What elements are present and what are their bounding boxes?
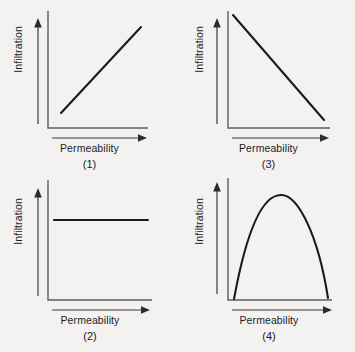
panel-1-x-arrow-head — [138, 134, 147, 142]
panel-4-x-arrow-head — [323, 306, 332, 314]
panel-4: Infiltration Permeability (4) — [178, 176, 355, 352]
panel-1-ylabel: Infiltration — [13, 26, 24, 73]
panel-3-ylabel: Infiltration — [194, 26, 205, 73]
panel-4-caption: (4) — [178, 330, 355, 342]
panel-1-y-arrow-head — [34, 18, 42, 28]
panel-3-curve — [233, 15, 324, 120]
panel-1-caption: (1) — [0, 158, 177, 170]
panel-2-xlabel: Permeability — [0, 314, 177, 326]
panel-3: Infiltration Permeability (3) — [178, 0, 355, 176]
panel-4-xlabel: Permeability — [178, 314, 355, 326]
panel-1: Infiltration Permeability (1) — [0, 0, 177, 176]
panel-3-xlabel: Permeability — [178, 142, 355, 154]
panel-2-axes — [48, 180, 152, 300]
panel-1-xlabel: Permeability — [0, 142, 177, 154]
panel-1-curve — [61, 27, 141, 113]
panel-4-curve — [234, 195, 328, 299]
panel-2: Infiltration Permeability (2) — [0, 176, 177, 352]
panel-2-ylabel: Infiltration — [13, 198, 24, 245]
panel-3-x-arrow-head — [320, 134, 329, 142]
panel-2-caption: (2) — [0, 330, 177, 342]
panel-4-ylabel: Infiltration — [194, 198, 205, 245]
panel-2-x-arrow-head — [141, 306, 150, 314]
panel-2-y-arrow-head — [34, 188, 42, 198]
panel-3-caption: (3) — [178, 158, 355, 170]
panel-4-y-arrow-head — [213, 182, 221, 192]
four-panel-figure: Infiltration Permeability (1) Infiltrati… — [0, 0, 355, 352]
panel-4-axes — [228, 178, 332, 300]
panel-3-y-arrow-head — [213, 18, 221, 28]
